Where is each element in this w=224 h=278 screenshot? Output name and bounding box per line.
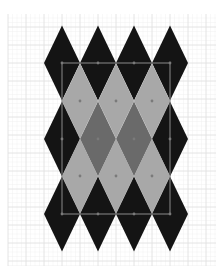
anchor-point-handle[interactable] [115, 100, 118, 103]
anchor-point-handle[interactable] [115, 175, 118, 178]
anchor-point-handle[interactable] [133, 213, 136, 216]
anchor-point-handle[interactable] [61, 213, 64, 216]
anchor-point-handle[interactable] [79, 175, 82, 178]
anchor-point-handle[interactable] [61, 138, 64, 141]
anchor-point-handle[interactable] [97, 138, 100, 141]
anchor-point-handle[interactable] [133, 62, 136, 65]
anchor-point-handle[interactable] [97, 62, 100, 65]
anchor-point-handle[interactable] [151, 175, 154, 178]
anchor-point-handle[interactable] [61, 62, 64, 65]
anchor-point-handle[interactable] [169, 62, 172, 65]
anchor-point-handle[interactable] [169, 213, 172, 216]
anchor-point-handle[interactable] [79, 100, 82, 103]
anchor-point-handle[interactable] [169, 138, 172, 141]
anchor-point-handle[interactable] [133, 138, 136, 141]
diagram-canvas[interactable] [0, 0, 224, 278]
anchor-point-handle[interactable] [97, 213, 100, 216]
anchor-point-handle[interactable] [151, 100, 154, 103]
